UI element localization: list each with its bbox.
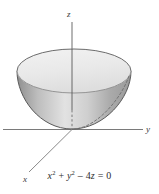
equation-plus: +: [56, 170, 67, 181]
equation-minus: –: [75, 170, 86, 181]
paraboloid-diagram-svg: z y x: [0, 0, 159, 194]
z-axis-label: z: [66, 9, 71, 19]
equation-rhs: 0: [106, 170, 111, 181]
equation-equals: =: [95, 170, 106, 181]
paraboloid-top-rim: [17, 49, 131, 93]
equation-caption: x2 + y2 – 4z = 0: [0, 170, 159, 181]
x-axis: [29, 130, 72, 173]
paraboloid-figure: z y x x2 + y2 – 4z = 0: [0, 0, 159, 194]
y-axis-label: y: [145, 124, 150, 134]
